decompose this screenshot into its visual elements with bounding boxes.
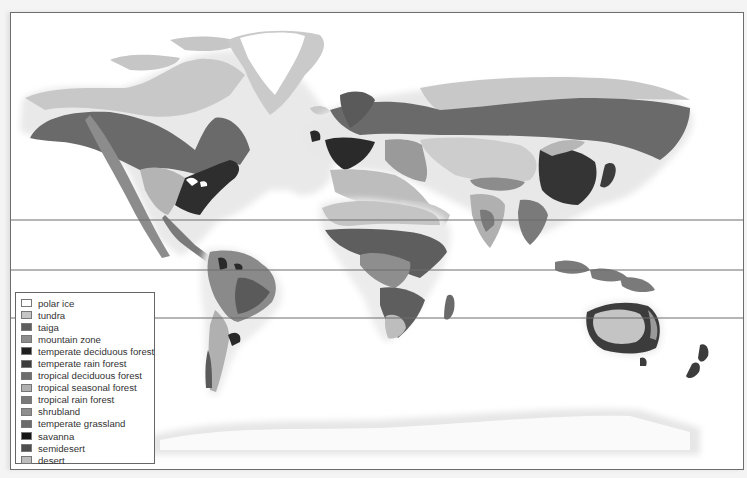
legend-label: tundra bbox=[38, 310, 65, 321]
swatch-tropical-seasonal-forest bbox=[21, 384, 32, 392]
swatch-mountain-zone bbox=[21, 335, 32, 343]
legend-label: savanna bbox=[38, 431, 74, 442]
legend-item-temperate-rain-forest: temperate rain forest bbox=[21, 357, 150, 369]
new-zealand bbox=[686, 344, 708, 378]
legend-item-shrubland: shrubland bbox=[21, 406, 150, 418]
swatch-shrubland bbox=[21, 408, 32, 416]
legend-item-tropical-seasonal-forest: tropical seasonal forest bbox=[21, 382, 150, 394]
legend-label: tropical deciduous forest bbox=[38, 370, 142, 381]
legend-item-temperate-deciduous-forest: temperate deciduous forest bbox=[21, 345, 150, 357]
legend-item-polar-ice: polar ice bbox=[21, 297, 150, 309]
legend-label: polar ice bbox=[38, 298, 74, 309]
swatch-taiga bbox=[21, 323, 32, 331]
swatch-tropical-rain-forest bbox=[21, 396, 32, 404]
swatch-semidesert bbox=[21, 444, 32, 452]
legend-label: tropical seasonal forest bbox=[38, 382, 137, 393]
legend-item-tropical-rain-forest: tropical rain forest bbox=[21, 394, 150, 406]
legend-label: temperate rain forest bbox=[38, 358, 127, 369]
legend-item-mountain-zone: mountain zone bbox=[21, 333, 150, 345]
legend-item-tropical-deciduous-forest: tropical deciduous forest bbox=[21, 370, 150, 382]
swatch-polar-ice bbox=[21, 299, 32, 307]
swatch-tundra bbox=[21, 311, 32, 319]
indonesia bbox=[555, 260, 655, 292]
legend-label: shrubland bbox=[38, 406, 80, 417]
legend-label: temperate deciduous forest bbox=[38, 346, 154, 357]
swatch-temperate-grassland bbox=[21, 420, 32, 428]
legend-item-taiga: taiga bbox=[21, 321, 150, 333]
swatch-tropical-deciduous-forest bbox=[21, 372, 32, 380]
australia bbox=[584, 301, 662, 366]
swatch-temperate-rain-forest bbox=[21, 360, 32, 368]
legend-item-savanna: savanna bbox=[21, 430, 150, 442]
swatch-savanna bbox=[21, 432, 32, 440]
legend-label: temperate grassland bbox=[38, 418, 125, 429]
map-legend: polar ice tundra taiga mountain zone tem… bbox=[15, 292, 155, 464]
legend-label: tropical rain forest bbox=[38, 394, 114, 405]
legend-label: taiga bbox=[38, 322, 59, 333]
legend-item-tundra: tundra bbox=[21, 309, 150, 321]
swatch-desert bbox=[21, 456, 32, 464]
legend-item-semidesert: semidesert bbox=[21, 442, 150, 454]
legend-label: semidesert bbox=[38, 443, 85, 454]
legend-item-temperate-grassland: temperate grassland bbox=[21, 418, 150, 430]
legend-label: mountain zone bbox=[38, 334, 101, 345]
antarctica bbox=[150, 409, 700, 455]
legend-label: desert bbox=[38, 455, 65, 466]
swatch-temperate-deciduous-forest bbox=[21, 347, 32, 355]
legend-item-desert: desert bbox=[21, 454, 150, 466]
